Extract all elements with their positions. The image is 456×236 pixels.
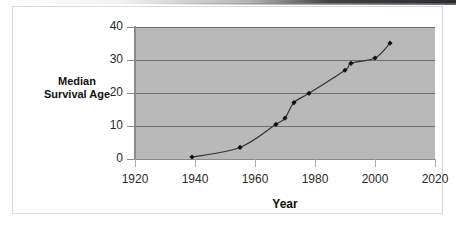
gridline-y-30 bbox=[135, 60, 435, 61]
x-tick-1960 bbox=[255, 159, 256, 167]
x-tick-label-2000: 2000 bbox=[362, 172, 389, 186]
y-tick-label-text: 40 bbox=[110, 19, 123, 33]
x-tick-1920 bbox=[135, 159, 136, 167]
x-tick-label-1960: 1960 bbox=[242, 172, 269, 186]
x-tick-label-1940: 1940 bbox=[182, 172, 209, 186]
x-tick-1980 bbox=[315, 159, 316, 167]
y-tick-label-text: 20 bbox=[110, 85, 123, 99]
x-tick-label-1920: 1920 bbox=[122, 172, 149, 186]
x-tick-2020 bbox=[435, 159, 436, 167]
y-tick-40 bbox=[127, 27, 135, 28]
y-tick-10 bbox=[127, 126, 135, 127]
gridline-y-40 bbox=[135, 27, 435, 28]
scan-artifact-band-secondary bbox=[150, 3, 456, 5]
y-tick-label-text: 30 bbox=[110, 52, 123, 66]
gridline-y-10 bbox=[135, 126, 435, 127]
y-tick-label-text: 10 bbox=[110, 118, 123, 132]
x-axis-line bbox=[134, 159, 435, 160]
y-tick-0 bbox=[127, 159, 135, 160]
x-tick-label-2020: 2020 bbox=[422, 172, 449, 186]
gridline-y-20 bbox=[135, 93, 435, 94]
x-tick-label-1980: 1980 bbox=[302, 172, 329, 186]
y-tick-30 bbox=[127, 60, 135, 61]
x-axis-title: Year bbox=[135, 197, 435, 211]
chart-frame: Median Survival Age Year 010203040192019… bbox=[12, 6, 443, 214]
x-tick-1940 bbox=[195, 159, 196, 167]
x-tick-2000 bbox=[375, 159, 376, 167]
y-tick-20 bbox=[127, 93, 135, 94]
plot-area bbox=[135, 27, 435, 159]
y-tick-label-text: 0 bbox=[116, 151, 123, 165]
